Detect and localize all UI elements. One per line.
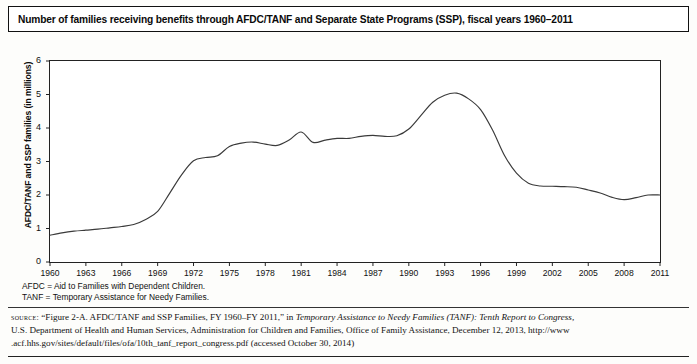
source-divider-bottom: [8, 356, 689, 357]
x-tick-label-1996: 1996: [461, 268, 501, 278]
x-tick-label-1981: 1981: [281, 268, 321, 278]
source-divider-top: [8, 307, 689, 308]
x-tick-label-1969: 1969: [138, 268, 178, 278]
x-tick-label-2011: 2011: [640, 268, 680, 278]
source-line-2: U.S. Department of Health and Human Serv…: [11, 324, 687, 336]
axis-ticks-group: [46, 61, 660, 266]
x-tick-label-1963: 1963: [66, 268, 106, 278]
x-tick-label-1978: 1978: [245, 268, 285, 278]
x-tick-label-1984: 1984: [317, 268, 357, 278]
x-tick-label-1972: 1972: [174, 268, 214, 278]
x-tick-label-2002: 2002: [532, 268, 572, 278]
x-tick-label-1975: 1975: [209, 268, 249, 278]
footnote-block: AFDC = Aid to Families with Dependent Ch…: [22, 281, 209, 303]
x-tick-label-1966: 1966: [102, 268, 142, 278]
x-tick-label-1993: 1993: [425, 268, 465, 278]
footnote-tanf: TANF = Temporary Assistance for Needy Fa…: [22, 292, 209, 303]
x-tick-label-1960: 1960: [30, 268, 70, 278]
figure-page: Number of families receiving benefits th…: [0, 0, 697, 364]
chart-svg: [0, 0, 697, 364]
y-axis-title: AFDC/TANF and SSP families (in millions): [23, 45, 33, 245]
x-tick-label-1990: 1990: [389, 268, 429, 278]
data-line-series-0: [50, 93, 660, 235]
x-tick-label-1999: 1999: [496, 268, 536, 278]
y-tick-label-0: 0: [21, 256, 41, 266]
source-line-1: source: “Figure 2-A. AFDC/TANF and SSP F…: [11, 311, 687, 324]
source-note: source: “Figure 2-A. AFDC/TANF and SSP F…: [11, 311, 687, 349]
source-line-3: .acf.hhs.gov/sites/default/files/ofa/10t…: [11, 337, 687, 349]
source-publication-title: Temporary Assistance to Needy Families (…: [296, 312, 575, 322]
x-tick-label-2008: 2008: [604, 268, 644, 278]
x-tick-label-1987: 1987: [353, 268, 393, 278]
source-line-1-text: “Figure 2-A. AFDC/TANF and SSP Families,…: [39, 312, 296, 322]
footnote-afdc: AFDC = Aid to Families with Dependent Ch…: [22, 281, 209, 292]
x-tick-label-2005: 2005: [568, 268, 608, 278]
source-label: source:: [11, 313, 39, 322]
